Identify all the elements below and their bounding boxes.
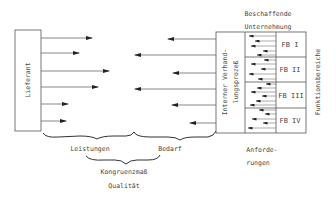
functional-areas-label: Funktionsbereiche [314, 49, 322, 116]
functional-area-3: FB III [278, 92, 303, 100]
requirements-line1: Anforde- [246, 146, 277, 154]
supplier-arrows [41, 38, 109, 121]
company-title-line1: Beschaffende [245, 10, 292, 18]
functional-area-1: FB I [282, 41, 299, 49]
demand-arrows [135, 39, 216, 123]
brace-left-label: Leistungen [70, 145, 109, 153]
braces [43, 131, 216, 164]
brace-right-label: Bedarf [158, 145, 182, 153]
requirements-line2: rungen [246, 159, 270, 167]
internal-process-line1: Interner Verhand- [221, 49, 229, 116]
quality-label: Qualität [108, 182, 139, 190]
supplier-box: Lieferant [15, 30, 41, 131]
functional-area-4: FB IV [279, 117, 301, 125]
procurement-diagram: Lieferant Beschaffende Unternehmung Inte… [0, 0, 336, 197]
supplier-label: Lieferant [24, 62, 32, 97]
company-title-line2: Unternehmung [245, 23, 292, 31]
functional-area-2: FB II [279, 66, 300, 74]
internal-process-line2: lungsprozeß [232, 60, 240, 103]
brace-bottom-label: Kongruenzmaß [101, 168, 148, 176]
